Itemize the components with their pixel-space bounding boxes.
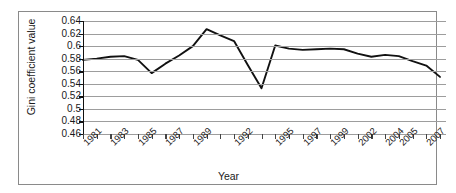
plot-area [83,21,440,134]
gridline [83,121,446,122]
y-axis-tick-mark [79,84,84,85]
y-axis-tick-mark [79,59,84,60]
y-axis-title: Gini coefficient value [24,8,38,126]
gridline [83,96,446,97]
x-axis-tick-labels: 1981198319851987198919921995199719992002… [83,140,456,170]
gridline [83,46,446,47]
y-axis-tick-mark [79,21,84,22]
chart-screenshot: Gini coefficient value 0.640.620.60.580.… [0,0,456,193]
x-axis-tick-mark [262,134,263,139]
y-axis-tick-mark [79,121,84,122]
y-axis-tick-labels: 0.640.620.60.580.560.540.520.50.480.46 [47,15,83,140]
gridline [83,21,446,22]
gridline [83,84,446,85]
gridline [83,71,446,72]
gridline [83,59,446,60]
y-axis-tick-mark [79,34,84,35]
gridline [83,109,446,110]
y-axis-tick-mark [79,96,84,97]
y-axis-tick-mark [79,109,84,110]
x-axis-tick-mark [220,134,221,139]
x-axis-title: Year [19,170,438,182]
gridline [83,34,446,35]
chart-frame: Gini coefficient value 0.640.620.60.580.… [18,11,437,185]
y-axis-tick-mark [79,46,84,47]
y-axis-tick-mark [79,71,84,72]
data-series-line [83,21,440,134]
